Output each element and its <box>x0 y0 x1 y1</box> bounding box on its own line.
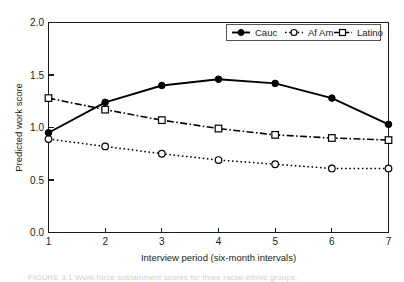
data-point <box>45 129 52 136</box>
open-circle-icon <box>291 30 297 36</box>
x-tick-label-1: 2 <box>102 236 108 247</box>
y-axis-title: Predicted work score <box>13 83 24 172</box>
x-axis-tick-labels: 1 2 3 4 5 6 7 <box>46 236 392 247</box>
data-point <box>159 150 166 157</box>
x-tick-label-4: 5 <box>272 236 278 247</box>
y-tick-label-0: 0.0 <box>30 227 44 238</box>
y-tick-label-4: 2.0 <box>30 17 44 28</box>
data-point <box>385 137 392 144</box>
data-point <box>215 157 222 164</box>
x-tick-label-0: 1 <box>46 236 52 247</box>
data-point <box>215 125 222 132</box>
data-point <box>329 135 336 142</box>
data-point <box>272 161 279 168</box>
data-point <box>159 117 166 124</box>
data-point <box>102 99 109 106</box>
open-square-icon <box>340 30 346 36</box>
y-tick-label-3: 1.5 <box>30 70 44 81</box>
data-point <box>385 121 392 128</box>
series-af-am <box>45 136 392 172</box>
y-axis-tick-labels: 0.0 0.5 1.0 1.5 2.0 <box>30 17 44 238</box>
legend-label-latino: Latino <box>357 27 383 38</box>
data-point <box>102 143 109 150</box>
data-point <box>329 165 336 172</box>
data-point <box>272 80 279 87</box>
legend-label-af-am: Af Am <box>308 27 333 38</box>
x-tick-label-2: 3 <box>159 236 165 247</box>
data-point <box>45 136 52 143</box>
data-point <box>272 132 279 139</box>
y-tick-label-2: 1.0 <box>30 122 44 133</box>
x-axis-title: Interview period (six-month intervals) <box>141 252 296 263</box>
filled-circle-icon <box>238 30 244 36</box>
data-point <box>102 106 109 113</box>
x-tick-label-3: 4 <box>216 236 222 247</box>
data-point <box>215 76 222 83</box>
chart-legend[interactable]: Cauc Af Am Latino <box>227 25 383 41</box>
x-axis-ticks <box>49 228 389 233</box>
figure-caption: FIGURE 3.1 Work-force sustainment scores… <box>28 273 297 282</box>
data-point <box>45 95 52 102</box>
data-point <box>159 82 166 89</box>
y-axis-ticks <box>49 23 54 233</box>
legend-label-cauc: Cauc <box>255 27 277 38</box>
x-tick-label-6: 7 <box>386 236 392 247</box>
y-tick-label-1: 0.5 <box>30 175 44 186</box>
x-tick-label-5: 6 <box>329 236 335 247</box>
data-point <box>385 165 392 172</box>
data-point <box>329 95 336 102</box>
